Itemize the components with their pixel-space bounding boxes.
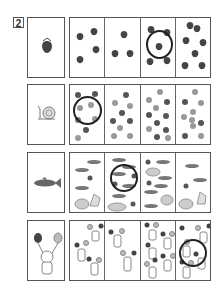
choice-cell-3[interactable] [141, 153, 176, 212]
choice-cell-3[interactable] [141, 85, 176, 144]
snail-icon [37, 105, 57, 121]
choice-cell-3[interactable] [141, 221, 176, 280]
choice-grid-fish [69, 152, 211, 213]
choice-cell-1[interactable] [70, 85, 105, 144]
row-cat-balloons [0, 220, 223, 281]
choice-cell-1[interactable] [70, 221, 105, 280]
strawberry-icon [146, 57, 154, 66]
choice-cell-3[interactable] [141, 18, 176, 77]
snail-group-icon [144, 88, 172, 142]
row-snail [0, 84, 223, 145]
reference-cell-snail [27, 84, 65, 145]
strawberry-icon [199, 38, 207, 47]
choice-cell-1[interactable] [70, 153, 105, 212]
strawberry-icon [76, 55, 84, 64]
snail-group-icon [108, 90, 136, 142]
strawberry-icon [186, 21, 194, 30]
strawberry-icon [92, 45, 100, 54]
fish-icon [32, 177, 62, 189]
answer-circle-mark [73, 96, 102, 125]
strawberry-icon [193, 24, 201, 33]
strawberry-icon [40, 38, 54, 55]
cat-with-balloons-icon [31, 231, 63, 277]
choice-cell-2[interactable] [105, 221, 140, 280]
strawberry-icon [191, 49, 199, 58]
choice-cell-2[interactable] [105, 18, 140, 77]
strawberry-icon [76, 32, 84, 41]
cat-group-icon [143, 222, 175, 280]
snail-group-icon [179, 88, 207, 142]
reference-cell-cat [27, 220, 65, 281]
choice-cell-4[interactable] [176, 153, 210, 212]
cat-group-icon [72, 223, 104, 279]
strawberry-icon [126, 49, 134, 58]
choice-cell-4[interactable] [176, 221, 210, 280]
row-fish [0, 152, 223, 213]
reference-cell-fish [27, 152, 65, 213]
strawberry-icon [198, 61, 206, 70]
cat-group-icon [107, 223, 139, 279]
choice-grid-snail [69, 84, 211, 145]
strawberry-icon [120, 30, 128, 39]
fish-group-icon [178, 156, 210, 212]
choice-grid-cat [69, 220, 211, 281]
row-strawberry [0, 17, 223, 78]
reference-cell-strawberry [27, 17, 65, 78]
strawberry-icon [182, 36, 190, 45]
choice-cell-2[interactable] [105, 85, 140, 144]
fish-group-icon [72, 156, 104, 212]
fish-group-icon [143, 156, 175, 212]
choice-grid-strawberry [69, 17, 211, 78]
strawberry-icon [181, 61, 189, 70]
choice-cell-2[interactable] [105, 153, 140, 212]
strawberry-icon [90, 27, 98, 36]
choice-cell-4[interactable] [176, 18, 210, 77]
answer-circle-mark [146, 30, 173, 59]
answer-circle-mark [179, 239, 207, 267]
strawberry-icon [111, 49, 119, 58]
choice-cell-4[interactable] [176, 85, 210, 144]
choice-cell-1[interactable] [70, 18, 105, 77]
